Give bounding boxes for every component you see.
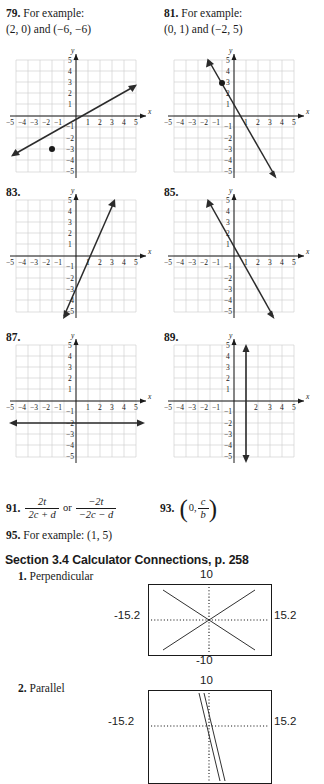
svg-text:1: 1 <box>226 385 230 394</box>
svg-text:1: 1 <box>86 118 90 127</box>
svg-text:−3: −3 <box>30 258 38 267</box>
svg-text:3: 3 <box>68 78 72 87</box>
calc-1-left-label: -15.2 <box>114 609 140 621</box>
svg-text:x: x <box>147 107 152 116</box>
svg-text:−2: −2 <box>200 258 208 267</box>
answer-93-close-paren: ) <box>209 499 217 519</box>
svg-text:4: 4 <box>226 67 230 76</box>
svg-text:−3: −3 <box>224 430 232 439</box>
svg-text:3: 3 <box>268 118 272 127</box>
svg-text:5: 5 <box>134 403 138 412</box>
svg-text:−3: −3 <box>30 118 38 127</box>
svg-text:−3: −3 <box>30 403 38 412</box>
svg-text:4: 4 <box>226 207 230 216</box>
answer-91-frac2-denominator: −2c − d <box>76 509 117 521</box>
svg-text:−5: −5 <box>164 258 172 267</box>
svg-text:5: 5 <box>292 258 296 267</box>
svg-text:3: 3 <box>268 258 272 267</box>
svg-text:y: y <box>228 48 233 55</box>
svg-text:−5: −5 <box>164 118 172 127</box>
svg-text:5: 5 <box>68 56 72 65</box>
svg-text:5: 5 <box>134 258 138 267</box>
calc-1-right-label: 15.2 <box>274 609 296 621</box>
svg-text:3: 3 <box>226 218 230 227</box>
answer-81: 81. For example: (0, 1) and (−2, 5) <box>164 6 243 37</box>
svg-text:−4: −4 <box>224 156 232 165</box>
svg-text:1: 1 <box>226 240 230 249</box>
calc-2-plot <box>149 691 270 782</box>
svg-text:4: 4 <box>68 207 72 216</box>
answer-93-frac-denominator: b <box>198 509 209 521</box>
svg-text:−2: −2 <box>66 134 74 143</box>
svg-text:x: x <box>305 107 310 116</box>
svg-text:−4: −4 <box>18 258 26 267</box>
svg-text:5: 5 <box>226 341 230 350</box>
svg-text:−3: −3 <box>188 118 196 127</box>
svg-text:−2: −2 <box>200 118 208 127</box>
svg-text:y: y <box>70 188 75 195</box>
svg-text:−4: −4 <box>18 403 26 412</box>
section-heading: Section 3.4 Calculator Connections, p. 2… <box>5 553 249 567</box>
svg-text:−4: −4 <box>224 296 232 305</box>
svg-text:3: 3 <box>68 363 72 372</box>
svg-text:4: 4 <box>280 403 284 412</box>
calc-2-line-2 <box>204 693 225 781</box>
svg-text:−5: −5 <box>66 452 74 461</box>
graph-81: −5−4 −3−2 −1 123 45 123 45 −1−2−3 −4−5 x… <box>162 48 314 180</box>
svg-text:x: x <box>305 247 310 256</box>
svg-text:−5: −5 <box>224 452 232 461</box>
svg-text:1: 1 <box>68 240 72 249</box>
graph-87-svg: −5−4 −3−2 −1 123 45 123 45 −1−2−3 −4−5 x… <box>4 333 156 465</box>
calc-2-item: 2. Parallel <box>18 682 65 694</box>
svg-text:1: 1 <box>68 100 72 109</box>
svg-text:4: 4 <box>280 258 284 267</box>
svg-text:−5: −5 <box>224 307 232 316</box>
svg-text:1: 1 <box>244 258 248 267</box>
svg-text:2: 2 <box>68 89 72 98</box>
answer-95: 95. For example: (1, 5) <box>6 528 112 544</box>
svg-text:−2: −2 <box>200 403 208 412</box>
graph-83-svg: −5−4 −3−2 −1 123 45 123 45 −1−2−3 −4−5 x… <box>4 188 156 320</box>
graph-81-svg: −5−4 −3−2 −1 123 45 123 45 −1−2−3 −4−5 x… <box>162 48 314 180</box>
svg-text:1: 1 <box>226 100 230 109</box>
svg-text:−1: −1 <box>212 118 220 127</box>
svg-text:5: 5 <box>226 56 230 65</box>
answer-81-number: 81. <box>164 7 178 19</box>
calc-1-item: 1. Perpendicular <box>18 570 93 582</box>
svg-text:−5: −5 <box>224 167 232 176</box>
svg-text:y: y <box>70 333 75 340</box>
answer-93-fraction: c b <box>198 496 209 521</box>
svg-text:−4: −4 <box>66 296 74 305</box>
svg-text:−3: −3 <box>224 285 232 294</box>
svg-text:5: 5 <box>68 341 72 350</box>
svg-text:4: 4 <box>68 352 72 361</box>
svg-text:−4: −4 <box>176 118 184 127</box>
answer-79: 79. For example: (2, 0) and (−6, −6) <box>6 6 91 37</box>
answer-91-frac2-numerator: −2t <box>76 496 117 509</box>
svg-text:−2: −2 <box>66 274 74 283</box>
answer-91-frac1-numerator: 2t <box>25 496 59 509</box>
svg-text:−4: −4 <box>176 258 184 267</box>
calc-1-plot <box>149 585 270 654</box>
svg-text:−1: −1 <box>54 258 62 267</box>
answer-93: 93. ( 0, c b ) <box>160 496 217 521</box>
svg-text:−3: −3 <box>188 403 196 412</box>
svg-text:−2: −2 <box>224 134 232 143</box>
svg-text:−2: −2 <box>42 118 50 127</box>
answer-95-number: 95. <box>6 529 20 541</box>
svg-text:2: 2 <box>254 403 258 412</box>
svg-text:−5: −5 <box>6 118 14 127</box>
calc-2-right-label: 15.2 <box>274 715 296 727</box>
svg-text:−1: −1 <box>54 403 62 412</box>
svg-text:−2: −2 <box>224 419 232 428</box>
svg-text:5: 5 <box>292 118 296 127</box>
svg-text:5: 5 <box>68 196 72 205</box>
svg-text:y: y <box>228 188 233 195</box>
calc-2-top-label: 10 <box>200 674 213 686</box>
svg-text:4: 4 <box>68 67 72 76</box>
svg-text:−1: −1 <box>66 122 74 131</box>
svg-text:2: 2 <box>98 258 102 267</box>
answer-91-number: 91. <box>6 501 20 517</box>
svg-text:1: 1 <box>86 403 90 412</box>
calc-2-left-label: -15.2 <box>108 715 134 727</box>
